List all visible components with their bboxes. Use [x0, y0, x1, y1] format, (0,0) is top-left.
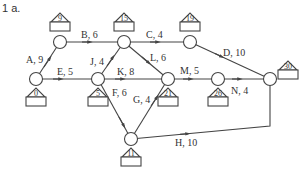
label-h: H, 10: [175, 137, 197, 148]
node-19: [184, 36, 197, 49]
node-26: [212, 73, 225, 86]
node-5: [92, 73, 105, 86]
box-n0: 0: [26, 88, 46, 106]
label-c: C, 4: [146, 29, 163, 40]
svg-text:5: 5: [96, 89, 100, 98]
box-n11: 11: [121, 148, 141, 166]
label-b: B, 6: [81, 29, 98, 40]
box-n30: 30: [278, 61, 298, 79]
label-n: N, 4: [231, 85, 248, 96]
label-g: G, 4: [133, 94, 150, 105]
node-30: [264, 73, 277, 86]
label-a: A, 9: [26, 54, 43, 65]
svg-text:30: 30: [284, 62, 292, 71]
label-j: J, 4: [90, 56, 104, 67]
svg-text:21: 21: [164, 89, 172, 98]
label-e: E, 5: [57, 66, 73, 77]
box-n15: 15: [114, 13, 134, 31]
edge-g: [131, 79, 168, 139]
svg-text:15: 15: [120, 14, 128, 23]
node-21: [162, 73, 175, 86]
box-n26: 26: [208, 88, 228, 106]
label-d: D, 10: [223, 47, 245, 58]
label-k: K, 8: [117, 66, 134, 77]
box-n19: 19: [180, 13, 200, 31]
node-0: [30, 73, 43, 86]
svg-text:19: 19: [186, 14, 194, 23]
edge-h: [131, 79, 270, 139]
label-l: L, 6: [150, 52, 166, 63]
svg-text:26: 26: [214, 89, 222, 98]
svg-text:9: 9: [58, 14, 62, 23]
box-n9: 9: [50, 13, 70, 31]
node-11: [125, 133, 138, 146]
label-m: M, 5: [180, 65, 199, 76]
node-9: [54, 36, 67, 49]
svg-text:0: 0: [34, 89, 38, 98]
network-diagram: A, 9 B, 6 C, 4 D, 10 E, 5 J, 4 K, 8 L, 6…: [0, 0, 307, 177]
svg-text:11: 11: [127, 149, 135, 158]
node-15: [118, 36, 131, 49]
label-f: F, 6: [112, 87, 127, 98]
